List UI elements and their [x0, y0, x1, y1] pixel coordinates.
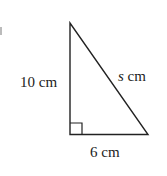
hypotenuse-unit: cm	[124, 68, 146, 84]
hypotenuse-label: s cm	[118, 68, 146, 84]
horizontal-side-label: 6 cm	[90, 144, 120, 160]
edge-fragment	[0, 27, 2, 35]
right-angle-marker	[70, 123, 82, 135]
vertical-side-label: 10 cm	[20, 74, 57, 90]
triangle-diagram: 10 cm s cm 6 cm	[0, 0, 167, 176]
